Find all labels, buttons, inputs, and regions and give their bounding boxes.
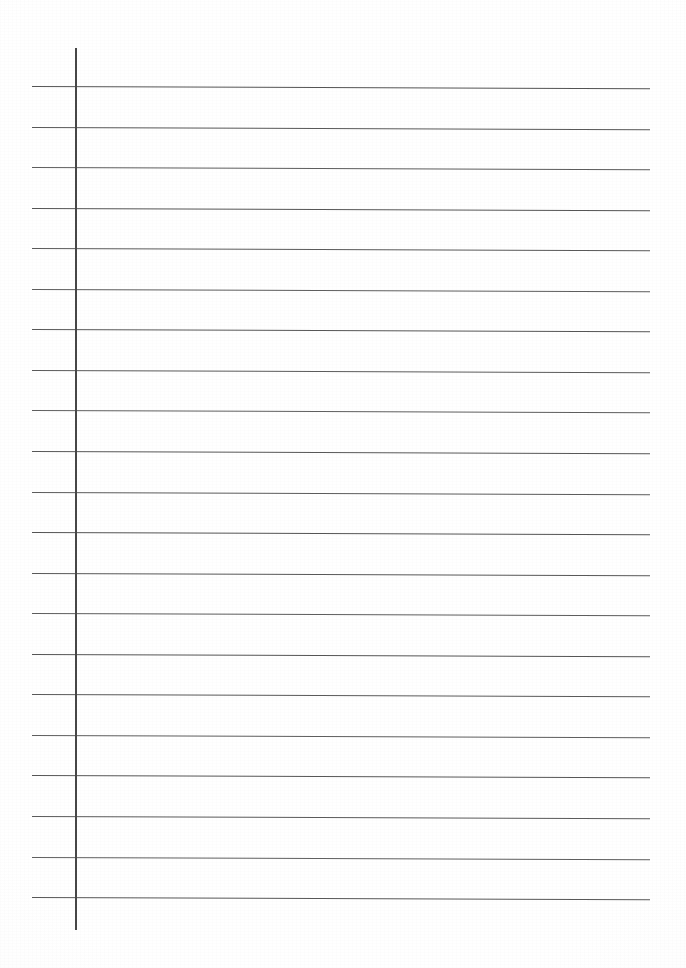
ruled-line <box>32 775 650 778</box>
ruled-line <box>32 248 650 251</box>
ruled-line <box>32 370 650 373</box>
writing-area[interactable] <box>0 0 686 968</box>
ruled-lines-layer <box>0 0 686 968</box>
ruled-line <box>32 167 650 170</box>
ruled-line <box>32 127 650 130</box>
ruled-line <box>32 816 650 819</box>
ruled-line <box>32 289 650 292</box>
vertical-margin-rule <box>75 48 77 930</box>
ruled-line <box>32 492 650 495</box>
ruled-line <box>32 654 650 657</box>
scanned-paper-page: Blank lined paper scan <box>0 0 686 968</box>
ruled-line <box>32 694 650 697</box>
ruled-line <box>32 451 650 454</box>
ruled-line <box>32 735 650 738</box>
ruled-line <box>32 573 650 576</box>
ruled-line <box>32 897 650 900</box>
ruled-line <box>32 532 650 535</box>
ruled-line <box>32 86 650 89</box>
ruled-line <box>32 613 650 616</box>
ruled-line <box>32 857 650 860</box>
ruled-line <box>32 410 650 413</box>
ruled-line <box>32 329 650 332</box>
ruled-line <box>32 208 650 211</box>
